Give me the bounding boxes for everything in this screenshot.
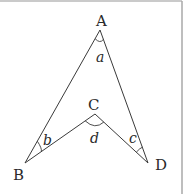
angle-label-a: a (96, 49, 104, 65)
edge-bc (25, 114, 95, 163)
vertex-label-c: C (88, 96, 99, 114)
vertex-label-d: D (155, 156, 167, 174)
angle-arc-d (85, 121, 104, 126)
vertex-label-b: B (13, 166, 24, 184)
edge-da (100, 30, 148, 163)
quadrilateral-diagram: A B C D a b d c (0, 0, 185, 194)
angle-label-b: b (43, 132, 52, 148)
angle-label-d: d (90, 130, 99, 146)
angle-arc-c (136, 147, 142, 152)
angle-arc-a (95, 39, 103, 42)
edge-cd (95, 114, 148, 163)
angle-arc-b (37, 141, 41, 152)
angle-label-c: c (129, 130, 137, 146)
diagram-frame: A B C D a b d c (0, 0, 185, 194)
vertex-label-a: A (95, 12, 107, 30)
